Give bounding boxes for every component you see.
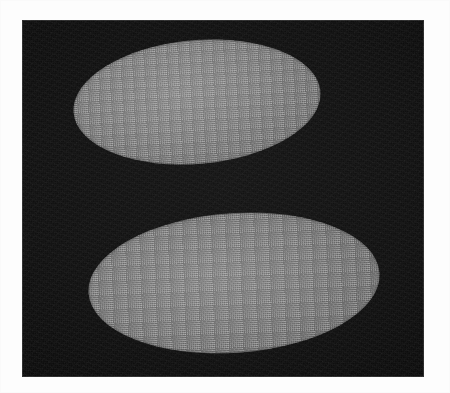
- figure-root: Two light gray ellipses on a near-black …: [0, 0, 450, 393]
- figure-alt-text: Two light gray ellipses on a near-black …: [0, 0, 1, 1]
- image-panel: [22, 20, 424, 377]
